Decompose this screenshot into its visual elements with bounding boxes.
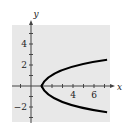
x-tick-label-4: 4 [70, 90, 76, 100]
y-tick-label-neg2: −2 [14, 102, 27, 112]
x-axis-arrow-icon [110, 84, 115, 88]
y-axis-label: y [32, 9, 39, 19]
x-tick-label-6: 6 [91, 90, 97, 100]
x-axis-label: x [117, 82, 122, 92]
y-tick-label-2: 2 [21, 60, 27, 70]
chart: y x 4 6 4 2 −2 [0, 0, 128, 130]
y-tick-label-4: 4 [21, 39, 27, 49]
y-axis-arrow-icon [29, 20, 33, 25]
